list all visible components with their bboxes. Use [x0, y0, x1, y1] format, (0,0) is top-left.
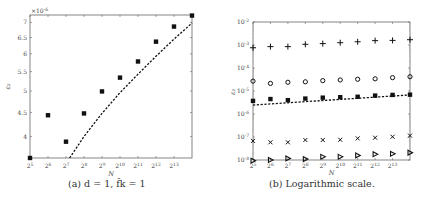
square-marker — [190, 13, 194, 17]
x-tick-label: 213 — [388, 162, 398, 170]
y-tick-label: 4.5 — [17, 109, 27, 116]
x-tick-label: 28 — [81, 162, 88, 170]
x-axis-title: N — [328, 169, 335, 177]
x-tick-label: 26 — [45, 162, 52, 170]
square-marker — [136, 59, 140, 63]
circle-marker — [390, 76, 394, 80]
square-marker — [64, 139, 68, 143]
square-marker — [251, 99, 255, 103]
y-tick-label: 6 — [23, 50, 27, 57]
circle-marker — [303, 80, 307, 84]
x-tick-label: 210 — [115, 162, 125, 170]
x-axis-title: N — [107, 170, 114, 178]
y-tick-label: 10-8 — [237, 156, 249, 164]
series-circle — [251, 75, 412, 86]
series-cross — [251, 134, 412, 145]
plot-frame — [30, 15, 192, 158]
plot-a-canvas: 252627282921021121221344.555.566.57×10-6… — [0, 0, 211, 198]
fit-dashed-line — [70, 23, 192, 158]
square-marker — [100, 89, 104, 93]
circle-marker — [338, 78, 342, 82]
circle-marker — [268, 81, 272, 85]
series-square — [251, 92, 412, 103]
y-tick-label: 10-6 — [237, 110, 249, 118]
square-marker — [28, 156, 32, 160]
plot-frame — [253, 22, 410, 160]
panel-a-linear-plot: 252627282921021121221344.555.566.57×10-6… — [0, 0, 211, 198]
y-tick-label: 7 — [23, 18, 27, 25]
triangle-marker — [321, 154, 326, 159]
y-tick-label: 10-5 — [237, 87, 249, 95]
square-marker — [321, 95, 325, 99]
fit-dashed-line — [253, 95, 410, 105]
series-plus — [250, 37, 413, 51]
y-axis-title: ε₂ — [229, 89, 237, 95]
square-marker — [154, 39, 158, 43]
x-tick-label: 25 — [27, 162, 34, 170]
x-tick-label: 211 — [353, 162, 363, 170]
x-tick-label: 212 — [370, 162, 380, 170]
x-tick-label: 28 — [302, 162, 309, 170]
x-tick-label: 27 — [63, 162, 70, 170]
y-tick-label: 6.5 — [17, 34, 27, 41]
triangle-marker — [373, 152, 378, 157]
caption-b: (b) Logarithmic scale. — [269, 178, 375, 189]
y-tick-label: 10-3 — [237, 41, 249, 49]
circle-marker — [286, 80, 290, 84]
x-tick-label: 211 — [133, 162, 143, 170]
circle-marker — [356, 77, 360, 81]
triangle-marker — [338, 154, 343, 159]
y-tick-label: 5 — [23, 87, 27, 94]
y-tick-label: 10-2 — [237, 18, 249, 26]
plot-b-canvas: 252627282921021121221310-810-710-610-510… — [211, 0, 423, 198]
circle-marker — [321, 79, 325, 83]
y-tick-label: 10-7 — [237, 133, 249, 141]
square-marker — [268, 97, 272, 101]
square-marker — [82, 111, 86, 115]
y-tick-label: 10-4 — [237, 64, 249, 72]
x-tick-label: 29 — [99, 162, 106, 170]
circle-marker — [373, 77, 377, 81]
x-tick-label: 27 — [285, 162, 292, 170]
square-marker — [118, 75, 122, 79]
triangle-marker — [391, 151, 396, 156]
square-marker — [46, 113, 50, 117]
y-tick-label: 5.5 — [17, 68, 27, 75]
panel-b-log-plot: 252627282921021121221310-810-710-610-510… — [211, 0, 423, 198]
series-measured — [28, 13, 194, 160]
square-marker — [286, 98, 290, 102]
x-tick-label: 29 — [319, 162, 326, 170]
square-marker — [172, 24, 176, 28]
y-tick-label: 4 — [23, 133, 27, 140]
y-multiplier-label: ×10-6 — [31, 7, 48, 15]
y-axis-title: ε₂ — [4, 83, 12, 89]
caption-a: (a) d = 1, f̂k = 1 — [68, 178, 146, 189]
x-tick-label: 213 — [169, 162, 179, 170]
x-tick-label: 212 — [151, 162, 161, 170]
triangle-marker — [356, 153, 361, 158]
square-marker — [303, 96, 307, 100]
x-tick-label: 210 — [335, 162, 345, 170]
